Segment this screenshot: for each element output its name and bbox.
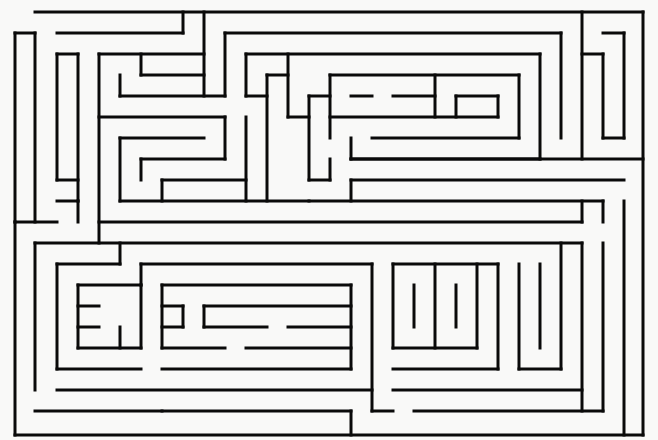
maze-walls — [0, 0, 658, 440]
maze-canvas: Maze — [0, 0, 658, 440]
